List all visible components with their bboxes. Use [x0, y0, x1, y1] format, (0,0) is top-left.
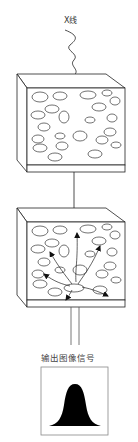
output-signal-plot — [41, 367, 108, 435]
scintillator-block-bottom — [17, 208, 125, 307]
signal-output-lines — [71, 307, 79, 345]
scintillator-block-top — [17, 74, 125, 172]
diagram-canvas — [0, 0, 138, 442]
output-signal-label: 输出图像信号 — [41, 351, 95, 363]
